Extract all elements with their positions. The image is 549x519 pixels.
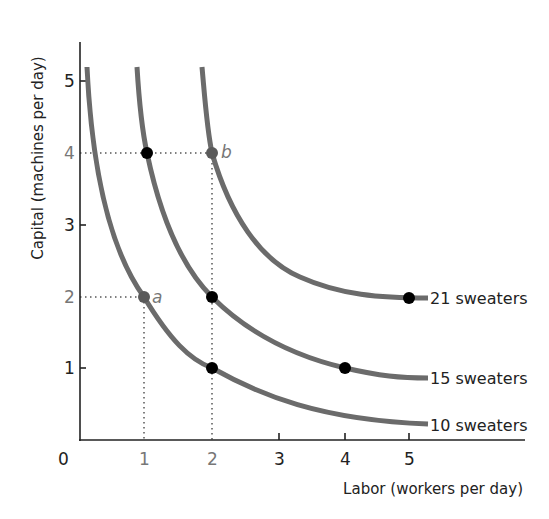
x-tick-4: 4 <box>340 449 351 469</box>
y-tick-4: 4 <box>64 143 75 163</box>
marker <box>206 362 218 374</box>
point-a-label: a <box>152 287 162 307</box>
x-tick-0: 0 <box>58 449 69 469</box>
x-tick-2: 2 <box>207 449 218 469</box>
y-tick-1: 1 <box>64 358 75 378</box>
marker <box>141 147 153 159</box>
isoquant-chart: a b 5 4 3 2 1 0 1 2 3 4 5 21 sweaters 15… <box>0 0 549 519</box>
x-tick-1: 1 <box>139 449 150 469</box>
isoquant-curves <box>87 67 428 424</box>
y-tick-5: 5 <box>64 71 75 91</box>
marker <box>403 292 415 304</box>
x-tick-3: 3 <box>274 449 285 469</box>
curve-label-21: 21 sweaters <box>430 289 528 308</box>
marker <box>206 291 218 303</box>
point-b-label: b <box>221 142 232 162</box>
y-axis-title: Capital (machines per day) <box>29 56 47 259</box>
point-a-marker <box>138 291 150 303</box>
curve-label-10: 10 sweaters <box>430 416 528 435</box>
isoquant-15 <box>137 67 428 378</box>
y-tick-3: 3 <box>64 215 75 235</box>
y-tick-2: 2 <box>64 287 75 307</box>
isoquant-21 <box>202 67 428 298</box>
x-axis-title: Labor (workers per day) <box>343 480 523 498</box>
chart-container: a b 5 4 3 2 1 0 1 2 3 4 5 21 sweaters 15… <box>0 0 549 519</box>
curve-label-15: 15 sweaters <box>430 369 528 388</box>
marker <box>339 362 351 374</box>
point-b-marker <box>206 147 218 159</box>
x-tick-5: 5 <box>404 449 415 469</box>
